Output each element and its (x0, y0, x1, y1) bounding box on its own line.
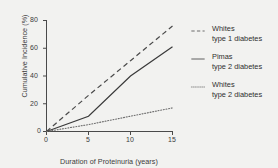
legend-label-line1: Pimas (212, 52, 262, 62)
chart-legend: Whites type 1 diabetes Pimas type 2 diab… (188, 26, 276, 110)
legend-item-whites-type2: Whites type 2 diabetes (188, 82, 276, 103)
x-tick-label-0: 0 (44, 136, 48, 143)
x-tick-label-5: 5 (86, 136, 90, 143)
x-axis-title-wrap: Duration of Proteinuria (years) (24, 150, 194, 168)
y-axis-title-wrap: Cumulative Incidence (%) (13, 1, 31, 111)
y-tick-label-60: 60 (30, 44, 38, 51)
legend-label-line2: type 2 diabetes (212, 90, 262, 100)
y-tick-label-40: 40 (30, 72, 38, 79)
legend-label-whites-type2: Whites type 2 diabetes (212, 80, 262, 99)
legend-swatch-solid (188, 58, 208, 60)
y-axis-title: Cumulative Incidence (%) (20, 14, 29, 97)
x-tick-marks (47, 132, 173, 136)
chart-figure: 80 60 40 20 0 0 5 10 15 Cumulative Incid… (0, 0, 278, 168)
legend-label-line1: Whites (212, 24, 262, 34)
y-tick-marks (43, 21, 47, 132)
x-tick-label-10: 10 (126, 136, 134, 143)
series-line-whites-type1 (47, 26, 173, 132)
y-tick-label-0: 0 (37, 127, 41, 134)
y-tick-label-20: 20 (30, 100, 38, 107)
legend-label-line2: type 2 diabetes (212, 62, 262, 72)
legend-item-whites-type1: Whites type 1 diabetes (188, 26, 276, 47)
legend-item-pimas-type2: Pimas type 2 diabetes (188, 54, 276, 75)
x-tick-label-15: 15 (168, 136, 176, 143)
legend-swatch-dotted (188, 86, 208, 88)
legend-label-whites-type1: Whites type 1 diabetes (212, 24, 262, 43)
series-line-pimas-type2 (47, 47, 173, 132)
x-axis-title: Duration of Proteinuria (years) (60, 157, 158, 166)
legend-swatch-dashed (188, 30, 208, 32)
series-line-whites-type2 (47, 108, 173, 132)
y-tick-label-80: 80 (30, 16, 38, 23)
legend-label-line1: Whites (212, 80, 262, 90)
legend-label-line2: type 1 diabetes (212, 34, 262, 44)
legend-label-pimas-type2: Pimas type 2 diabetes (212, 52, 262, 71)
